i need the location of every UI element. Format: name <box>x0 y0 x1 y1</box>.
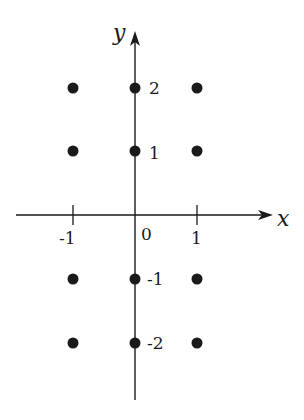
point <box>68 146 79 157</box>
coordinate-diagram: y x -1 0 1 2 1 -1 -2 <box>0 0 304 420</box>
point <box>192 83 203 94</box>
point <box>192 146 203 157</box>
y-axis-label: y <box>112 20 126 45</box>
y-tick-label-2: 2 <box>149 78 160 98</box>
x-tick-label-1: 1 <box>191 228 202 248</box>
x-tick-label-neg1: -1 <box>59 228 76 248</box>
point <box>192 338 203 349</box>
y-tick-label-1: 1 <box>149 143 160 163</box>
x-axis-label: x <box>277 206 290 231</box>
point <box>130 83 141 94</box>
point <box>68 274 79 285</box>
point <box>130 146 141 157</box>
y-tick-label-neg1: -1 <box>147 269 164 289</box>
point <box>130 274 141 285</box>
point <box>68 83 79 94</box>
point <box>192 274 203 285</box>
origin-label: 0 <box>141 224 152 244</box>
y-tick-label-neg2: -2 <box>147 333 164 353</box>
point <box>130 338 141 349</box>
point <box>68 338 79 349</box>
